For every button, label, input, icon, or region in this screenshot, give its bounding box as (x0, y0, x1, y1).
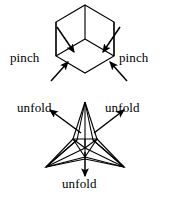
star-crease-left-center (46, 148, 85, 167)
star-crease-top-right (85, 102, 97, 139)
pinch-arrow-lower-left (51, 62, 68, 81)
star-crease-right-center (85, 148, 124, 167)
label-unfold-right: unfold (105, 101, 140, 115)
pinch-arrow-upper-right (103, 27, 120, 52)
unfold-arrow-group (50, 110, 124, 176)
figure-canvas (0, 0, 169, 197)
label-pinch-right: pinch (119, 51, 148, 65)
geometry-figure: pinch pinch unfold unfold unfold (0, 0, 169, 197)
star-core-apex-right (85, 139, 97, 148)
pinch-arrow-upper-left (57, 27, 74, 52)
label-unfold-left: unfold (17, 101, 52, 115)
star-crease-top-left (73, 102, 85, 139)
label-unfold-bottom: unfold (62, 177, 97, 191)
star-core-apex-left (73, 139, 85, 148)
pinch-arrow-group (51, 27, 127, 81)
unfold-arrow-left (50, 110, 81, 133)
label-pinch-left: pinch (10, 51, 39, 65)
